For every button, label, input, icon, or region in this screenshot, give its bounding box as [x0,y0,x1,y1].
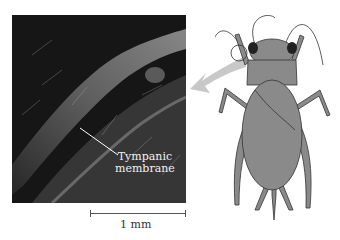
label-line-2: membrane [115,163,175,175]
scale-bar [90,213,186,214]
scale-bar-label: 1 mm [120,218,151,231]
micrograph-photo: Tympanic membrane [12,15,186,203]
cricket-illustration [215,10,340,225]
tympanic-membrane-label: Tympanic membrane [115,151,175,175]
